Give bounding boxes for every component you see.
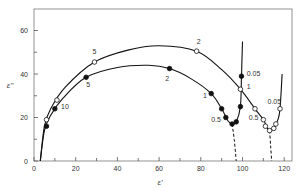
y-axis-label: ε'' [7, 81, 14, 90]
open-point [92, 60, 97, 65]
open-point [194, 49, 199, 54]
open-point [55, 98, 60, 103]
y-tick-label: 60 [20, 27, 28, 34]
filled-label: 10 [61, 103, 69, 110]
point-labels: 105210.50.055210.50.05 [61, 38, 281, 123]
filled-point [238, 104, 243, 109]
cole-cole-plot: 0204060801001200204060 105210.50.055210.… [0, 0, 299, 190]
x-axis-label: ε' [157, 178, 163, 187]
filled-curve [40, 41, 242, 161]
open-point [261, 117, 266, 122]
filled-label: 5 [86, 81, 90, 88]
y-tick-label: 0 [24, 158, 28, 165]
data-points [44, 49, 282, 133]
filled-extrapolation [232, 124, 236, 161]
open-point [44, 117, 49, 122]
filled-point [84, 75, 89, 80]
x-tick-label: 20 [72, 165, 80, 172]
filled-point [209, 91, 214, 96]
open-point [263, 124, 268, 129]
filled-point [167, 66, 172, 71]
x-tick-label: 100 [237, 165, 249, 172]
open-label: 5 [92, 48, 96, 55]
open-extrapolation [270, 131, 272, 161]
filled-label: 1 [203, 92, 207, 99]
open-point [238, 87, 243, 92]
filled-label: 0.5 [211, 116, 221, 123]
open-label: 2 [197, 38, 201, 45]
axes: 0204060801001200204060 [20, 27, 290, 172]
filled-point [44, 124, 49, 129]
open-label: 1 [247, 83, 251, 90]
filled-label: 0.05 [247, 70, 261, 77]
curves [40, 41, 282, 161]
filled-point [224, 115, 229, 120]
x-tick-label: 120 [278, 165, 290, 172]
x-tick-label: 40 [114, 165, 122, 172]
open-curve [40, 46, 282, 161]
filled-point [239, 74, 244, 79]
plot-frame [34, 9, 292, 161]
y-tick-label: 20 [20, 114, 28, 121]
x-tick-label: 0 [32, 165, 36, 172]
open-label: 0.5 [249, 114, 259, 121]
filled-point [53, 107, 58, 112]
filled-label: 2 [165, 75, 169, 82]
filled-point [234, 120, 239, 125]
open-point [274, 122, 279, 127]
x-tick-label: 80 [197, 165, 205, 172]
y-tick-label: 40 [20, 71, 28, 78]
open-point [271, 126, 276, 131]
open-label: 0.05 [268, 98, 282, 105]
filled-point [219, 107, 224, 112]
x-tick-label: 60 [155, 165, 163, 172]
open-point [278, 107, 283, 112]
chart: 0204060801001200204060 105210.50.055210.… [0, 0, 299, 190]
open-point [253, 107, 258, 112]
